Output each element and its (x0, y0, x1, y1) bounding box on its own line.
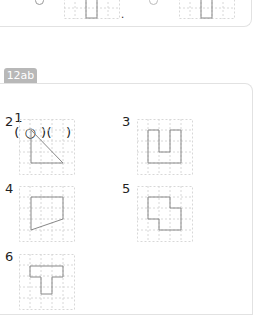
grid-figure-prev-2 (179, 0, 235, 26)
grid-figure-u-shape (137, 119, 193, 175)
item-number: 3 (122, 114, 130, 129)
section-tag: 12ab (4, 68, 37, 83)
punctuation: . (121, 9, 124, 20)
grid-figure-right-triangle (19, 119, 75, 175)
item-number: 6 (5, 249, 13, 264)
grid-figure-prev-1 (64, 0, 120, 26)
item-number: 4 (5, 181, 13, 196)
grid-figure-trapezoid (19, 186, 75, 242)
grid-figure-t-shape (19, 254, 75, 310)
item-number: 2 (5, 114, 13, 129)
item-number: 5 (122, 181, 130, 196)
grid-figure-stepped-polygon (137, 186, 193, 242)
